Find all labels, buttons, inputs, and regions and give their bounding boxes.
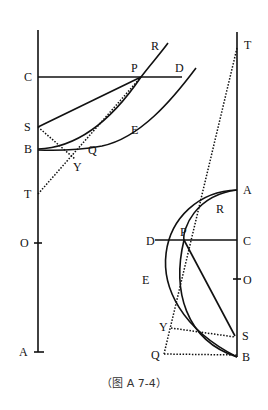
left-label-c: C bbox=[24, 70, 32, 84]
right-label-s: S bbox=[242, 329, 249, 343]
right-label-e: E bbox=[142, 273, 149, 287]
right-label-o: O bbox=[243, 273, 252, 287]
left-label-a: A bbox=[19, 345, 28, 359]
left-label-e: E bbox=[131, 123, 138, 137]
right-label-a: A bbox=[243, 183, 252, 197]
right-diagram: T A R D P C E O Y S Q B bbox=[142, 32, 252, 364]
left-diagram: C S B T O A P D R E Q Y bbox=[19, 30, 196, 359]
right-label-p: P bbox=[180, 225, 187, 239]
right-label-c: C bbox=[243, 234, 251, 248]
left-label-p: P bbox=[131, 61, 138, 75]
right-label-r: R bbox=[216, 202, 224, 216]
right-arc-apb bbox=[180, 190, 237, 357]
left-label-d: D bbox=[175, 61, 184, 75]
left-label-t: T bbox=[24, 187, 32, 201]
left-label-s: S bbox=[24, 120, 31, 134]
geometry-figure: C S B T O A P D R E Q Y T A R D P bbox=[0, 0, 268, 410]
left-label-q: Q bbox=[88, 143, 97, 157]
left-label-y: Y bbox=[73, 160, 82, 174]
left-label-b: B bbox=[24, 142, 32, 156]
right-dotted-qb bbox=[164, 354, 237, 355]
left-line-sp bbox=[38, 77, 141, 127]
left-curve-bqd bbox=[38, 68, 196, 150]
left-label-o: O bbox=[20, 236, 29, 250]
left-label-r: R bbox=[151, 39, 159, 53]
right-label-q: Q bbox=[151, 348, 160, 362]
left-dotted-tp bbox=[38, 77, 141, 194]
right-label-t: T bbox=[244, 38, 252, 52]
right-label-b: B bbox=[242, 350, 250, 364]
figure-caption: （图 A 7-4） bbox=[101, 377, 166, 390]
right-label-y: Y bbox=[159, 320, 168, 334]
right-label-d: D bbox=[146, 234, 155, 248]
